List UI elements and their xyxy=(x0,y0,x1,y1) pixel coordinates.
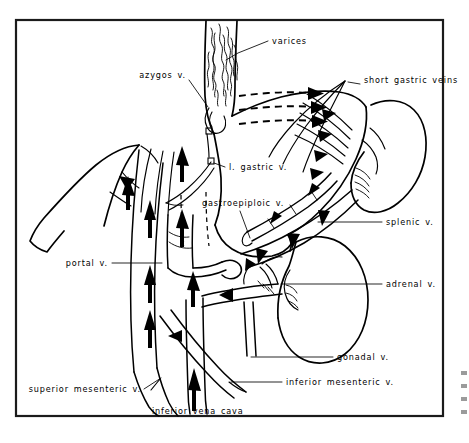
label-inferior-mesenteric-v: inferior mesenteric v. xyxy=(286,377,394,387)
liver-portal-radicles xyxy=(110,149,174,215)
label-inferior-vena-cava: inferior vena cava xyxy=(152,406,244,416)
stomach-outline xyxy=(214,91,367,257)
page-edge-artifacts xyxy=(461,371,467,414)
label-l-gastric-v: l. gastric v. xyxy=(229,162,287,172)
left-gastric-vein xyxy=(166,108,226,210)
label-superior-mesenteric-v: superior mesenteric v. xyxy=(29,384,141,394)
esophageal-varices xyxy=(207,24,237,106)
label-splenic-v: splenic v. xyxy=(386,217,434,227)
liver-outline xyxy=(30,145,158,252)
left-kidney-outline xyxy=(278,237,368,363)
leader-short-gastric-veins xyxy=(348,82,360,84)
label-gonadal-v: gonadal v. xyxy=(337,352,389,362)
portal-collateral-circulation-diagram: varices short gastric veins azygos v. l.… xyxy=(0,0,469,443)
label-gastroepiploic-v: gastroepiploic v. xyxy=(202,198,284,208)
label-portal-v: portal v. xyxy=(66,258,108,268)
spleen-outline xyxy=(351,101,426,213)
label-azygos-v: azygos v. xyxy=(139,70,186,80)
inferior-vena-cava xyxy=(186,298,207,414)
label-varices: varices xyxy=(272,36,307,46)
label-short-gastric-veins: short gastric veins xyxy=(364,75,458,85)
adrenal-renal-gonadal-veins xyxy=(202,257,282,356)
figure-page: varices short gastric veins azygos v. l.… xyxy=(0,0,469,443)
label-adrenal-v: adrenal v. xyxy=(386,279,436,289)
